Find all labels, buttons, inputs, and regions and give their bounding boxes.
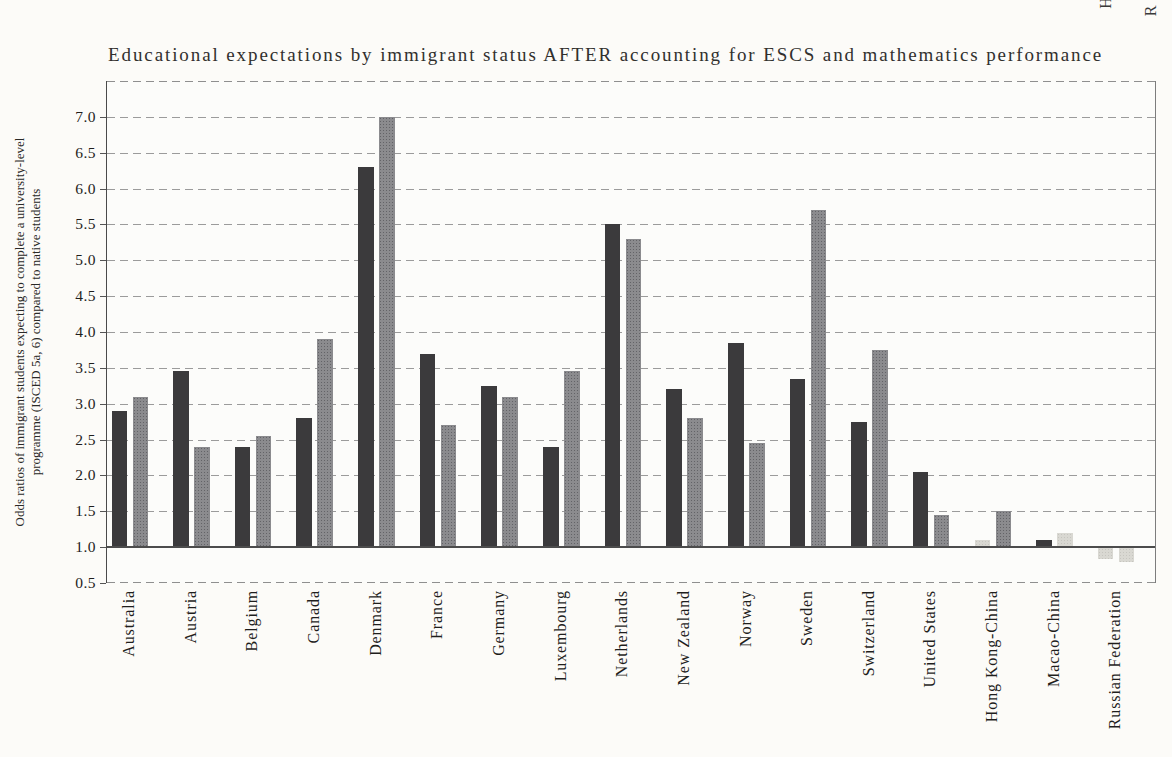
y-tick-2.5 — [100, 440, 106, 441]
gridline-6.5 — [107, 153, 1155, 154]
y-tick-label-1.5: 1.5 — [62, 502, 96, 520]
y-tick-4.5 — [100, 296, 106, 297]
bar-norway-right-bar-gray — [749, 443, 765, 547]
top-fragment-H: H — [1097, 0, 1115, 9]
plot-area — [106, 81, 1156, 583]
y-tick-5.0 — [100, 260, 106, 261]
x-label-france: France — [428, 590, 446, 639]
bar-russian-federation-right-bar-gray — [1119, 548, 1135, 562]
y-tick-6.5 — [100, 153, 106, 154]
y-axis-label-line1: Odds ratios of immigrant students expect… — [12, 81, 28, 583]
bar-canada-left-bar-dark — [296, 418, 312, 547]
y-tick-2.0 — [100, 475, 106, 476]
bar-new-zealand-left-bar-dark — [666, 389, 682, 547]
y-tick-4.0 — [100, 332, 106, 333]
bar-hong-kong-china-right-bar-gray — [996, 511, 1012, 547]
x-label-germany: Germany — [490, 590, 508, 656]
x-label-austria: Austria — [182, 590, 200, 643]
bar-netherlands-left-bar-dark — [605, 224, 621, 547]
bar-new-zealand-right-bar-gray — [687, 418, 703, 547]
bar-netherlands-right-bar-gray — [626, 239, 642, 547]
bar-russian-federation-left-bar-dark — [1098, 548, 1114, 559]
chart-title: Educational expectations by immigrant st… — [108, 44, 1168, 66]
gridline-6.0 — [107, 189, 1155, 190]
x-label-canada: Canada — [305, 590, 323, 643]
x-label-belgium: Belgium — [243, 590, 261, 651]
y-tick-3.0 — [100, 404, 106, 405]
bar-france-right-bar-gray — [441, 425, 457, 547]
bar-united-states-left-bar-dark — [913, 472, 929, 547]
x-label-russian-federation: Russian Federation — [1106, 590, 1124, 729]
y-tick-label-5.0: 5.0 — [62, 251, 96, 269]
bar-united-states-right-bar-gray — [934, 515, 950, 547]
baseline-odds-1 — [107, 546, 1155, 548]
y-tick-label-6.5: 6.5 — [62, 144, 96, 162]
plot-bottom-border — [107, 582, 1155, 583]
gridline-7.0 — [107, 117, 1155, 118]
x-label-luxembourg: Luxembourg — [552, 590, 570, 681]
gridline-5.5 — [107, 224, 1155, 225]
bar-denmark-left-bar-dark — [358, 167, 374, 547]
y-tick-1.0 — [100, 547, 106, 548]
bar-sweden-left-bar-dark — [790, 379, 806, 548]
bar-canada-right-bar-gray — [317, 339, 333, 547]
y-tick-label-2.5: 2.5 — [62, 431, 96, 449]
y-tick-7.0 — [100, 117, 106, 118]
x-label-denmark: Denmark — [367, 590, 385, 656]
bar-denmark-right-bar-gray — [379, 117, 395, 547]
bar-belgium-right-bar-gray — [256, 436, 272, 547]
x-label-hong-kong-china: Hong Kong-China — [983, 590, 1001, 722]
top-fragment-R: R — [1142, 6, 1160, 17]
y-tick-label-6.0: 6.0 — [62, 180, 96, 198]
x-label-australia: Australia — [120, 590, 138, 657]
y-tick-6.0 — [100, 189, 106, 190]
x-label-switzerland: Switzerland — [860, 590, 878, 676]
y-tick-label-3.0: 3.0 — [62, 395, 96, 413]
x-label-netherlands: Netherlands — [613, 590, 631, 677]
bar-austria-left-bar-dark — [173, 371, 189, 547]
y-tick-label-5.5: 5.5 — [62, 215, 96, 233]
y-tick-label-1.0: 1.0 — [62, 538, 96, 556]
y-tick-3.5 — [100, 368, 106, 369]
bar-germany-left-bar-dark — [481, 386, 497, 547]
bar-norway-left-bar-dark — [728, 343, 744, 547]
bar-australia-left-bar-dark — [112, 411, 128, 547]
y-tick-label-2.0: 2.0 — [62, 466, 96, 484]
y-tick-label-0.5: 0.5 — [62, 574, 96, 592]
x-label-united-states: United States — [921, 590, 939, 687]
x-label-norway: Norway — [737, 590, 755, 647]
bar-switzerland-right-bar-gray — [872, 350, 888, 547]
y-tick-0.5 — [100, 583, 106, 584]
scanned-chart-page: Educational expectations by immigrant st… — [0, 0, 1172, 757]
y-tick-label-3.5: 3.5 — [62, 359, 96, 377]
bar-australia-right-bar-gray — [133, 397, 149, 548]
bar-sweden-right-bar-gray — [811, 210, 827, 547]
y-tick-label-4.5: 4.5 — [62, 287, 96, 305]
x-label-macao-china: Macao-China — [1045, 590, 1063, 687]
y-tick-label-4.0: 4.0 — [62, 323, 96, 341]
x-label-sweden: Sweden — [798, 590, 816, 646]
bar-switzerland-left-bar-dark — [851, 422, 867, 548]
bar-belgium-left-bar-dark — [235, 447, 251, 547]
bar-luxembourg-right-bar-gray — [564, 371, 580, 547]
bar-france-left-bar-dark — [420, 354, 436, 548]
bar-macao-china-right-bar-gray — [1057, 533, 1073, 547]
bar-luxembourg-left-bar-dark — [543, 447, 559, 547]
plot-top-border — [107, 81, 1155, 82]
y-tick-label-7.0: 7.0 — [62, 108, 96, 126]
bar-austria-right-bar-gray — [194, 447, 210, 547]
y-tick-5.5 — [100, 224, 106, 225]
y-axis-label-line2: programme (ISCED 5a, 6) compared to nati… — [28, 81, 44, 583]
bar-germany-right-bar-gray — [502, 397, 518, 548]
x-label-new-zealand: New Zealand — [675, 590, 693, 686]
y-tick-1.5 — [100, 511, 106, 512]
y-axis-label: Odds ratios of immigrant students expect… — [12, 81, 44, 583]
